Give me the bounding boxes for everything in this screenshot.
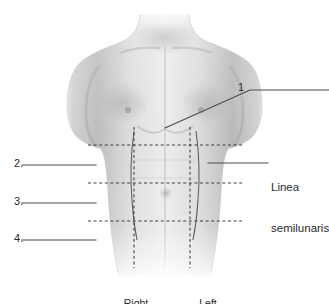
right-lateral-plane-label-line1: Right [104,297,168,304]
linea-semilunaris-label: Linea semilunaris [271,154,329,263]
linea-semilunaris-label-line2: semilunaris [271,222,329,236]
torso-illustration [60,10,270,282]
right-lateral-plane-label: Right lateral plane [104,272,168,304]
callout-label-2: 2. [14,157,24,170]
anatomical-figure: 1 2. 3. 4. Linea semilunaris Right later… [0,0,329,304]
callout-label-4: 4. [14,232,24,245]
torso-vertical-fade [60,10,270,282]
callout-label-3: 3. [14,195,24,208]
callout-label-1: 1 [238,81,244,94]
left-lateral-plane-label: Left lateral plane [176,272,240,304]
left-lateral-plane-label-line1: Left [176,297,240,304]
linea-semilunaris-label-line1: Linea [271,181,329,195]
